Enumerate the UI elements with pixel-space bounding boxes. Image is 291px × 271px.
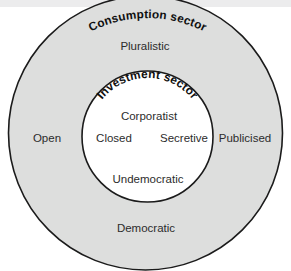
inner-label-left: Closed	[96, 132, 132, 144]
inner-label-right: Secretive	[160, 132, 208, 144]
concentric-sector-diagram: Consumption sector Investment sector Plu…	[0, 0, 291, 271]
inner-label-bottom: Undemocratic	[113, 173, 184, 185]
inner-label-top: Corporatist	[121, 110, 178, 122]
outer-label-left: Open	[33, 132, 61, 144]
outer-label-right: Publicised	[219, 132, 271, 144]
outer-label-top: Pluralistic	[120, 40, 169, 52]
diagram-canvas: Consumption sector Investment sector Plu…	[0, 0, 291, 271]
outer-label-bottom: Democratic	[117, 222, 175, 234]
